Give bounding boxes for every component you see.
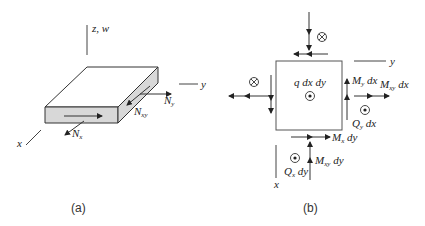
nxy-label: Nxy <box>133 105 148 119</box>
y-axis-label: y <box>200 78 206 90</box>
panel-a: z, w y x Nx Nxy Ny (a) <box>16 22 206 215</box>
into-page-icon-top <box>318 33 327 42</box>
load-label: q dx dy <box>294 76 326 88</box>
panel-b: y q dx dy My dx Mxy dx Qy <box>229 12 409 215</box>
mxy-dx-label: Mxy dx <box>379 78 409 92</box>
qy-dx-label: Qy dx <box>352 117 376 131</box>
mxy-dy-label: Mxy dy <box>314 154 344 168</box>
out-of-page-icon-bottom <box>291 154 300 163</box>
out-of-page-icon-right <box>361 106 370 115</box>
y-axis-label-b: y <box>389 55 395 67</box>
mx-dy-label: Mx dy <box>331 131 358 145</box>
x-axis-line <box>26 130 41 145</box>
qx-dy-label: Qx dy <box>284 165 308 179</box>
x-axis-label: x <box>16 137 22 149</box>
plate-diagram: z, w y x Nx Nxy Ny (a) <box>0 0 425 226</box>
into-page-icon-left <box>250 78 259 87</box>
my-dx-label: My dx <box>351 74 378 88</box>
nx-label: Nx <box>71 127 83 141</box>
x-axis-label-b: x <box>273 178 279 190</box>
caption-b: (b) <box>303 201 318 215</box>
ny-label: Ny <box>163 94 175 108</box>
z-axis-label: z, w <box>91 22 110 34</box>
plate-front-face <box>45 107 118 123</box>
out-of-page-icon-center <box>306 92 315 101</box>
caption-a: (a) <box>71 201 86 215</box>
